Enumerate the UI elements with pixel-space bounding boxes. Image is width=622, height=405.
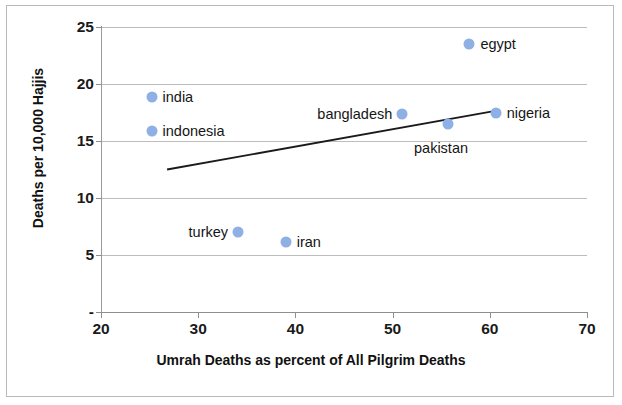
x-tick-label: 30	[168, 320, 228, 338]
data-point-label-pakistan: pakistan	[414, 140, 468, 156]
data-point-pakistan[interactable]	[443, 118, 454, 129]
chart-figure: -510152025 203040506070 indiaindonesiatu…	[0, 0, 622, 405]
x-axis-line	[101, 312, 588, 313]
data-point-label-nigeria: nigeria	[507, 105, 551, 121]
y-tick-mark	[96, 141, 102, 142]
gridline	[101, 27, 587, 28]
x-tick-label: 20	[71, 320, 131, 338]
y-tick-mark	[96, 27, 102, 28]
x-tick-mark	[295, 312, 296, 318]
x-tick-label: 50	[363, 320, 423, 338]
x-tick-mark	[587, 312, 588, 318]
x-tick-mark	[393, 312, 394, 318]
x-axis-title: Umrah Deaths as percent of All Pilgrim D…	[0, 352, 622, 368]
x-tick-label: 70	[557, 320, 617, 338]
y-axis-title: Deaths per 10,000 Hajjis	[30, 18, 46, 278]
data-point-nigeria[interactable]	[490, 107, 501, 118]
gridline	[101, 84, 587, 85]
data-point-india[interactable]	[146, 91, 157, 102]
y-tick-mark	[96, 84, 102, 85]
y-tick-label: -	[34, 303, 94, 321]
y-tick-mark	[96, 255, 102, 256]
data-point-egypt[interactable]	[464, 39, 475, 50]
data-point-turkey[interactable]	[233, 227, 244, 238]
data-point-label-iran: iran	[297, 234, 321, 250]
data-point-indonesia[interactable]	[146, 125, 157, 136]
data-point-iran[interactable]	[280, 237, 291, 248]
x-tick-label: 40	[265, 320, 325, 338]
gridline	[101, 198, 587, 199]
data-point-label-egypt: egypt	[480, 36, 515, 52]
data-point-label-india: india	[163, 89, 194, 105]
y-tick-mark	[96, 198, 102, 199]
data-point-label-turkey: turkey	[189, 224, 229, 240]
gridline	[101, 255, 587, 256]
x-tick-mark	[101, 312, 102, 318]
x-tick-mark	[490, 312, 491, 318]
x-tick-mark	[198, 312, 199, 318]
gridlines	[101, 27, 587, 312]
x-tick-label: 60	[460, 320, 520, 338]
data-point-label-bangladesh: bangladesh	[317, 106, 392, 122]
gridline	[101, 141, 587, 142]
data-point-label-indonesia: indonesia	[163, 123, 225, 139]
data-point-bangladesh[interactable]	[397, 108, 408, 119]
